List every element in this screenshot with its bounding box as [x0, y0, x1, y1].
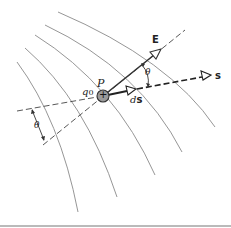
path-dashed-line-forward	[137, 77, 202, 89]
field-diagram	[0, 0, 231, 228]
s-path-arrowhead	[201, 71, 211, 80]
charge-label: q0	[82, 87, 94, 97]
lower-angle-arrow-top	[31, 109, 35, 114]
path-dashed-line-back	[17, 96, 103, 111]
field-vector-label-e: E	[152, 35, 159, 45]
lower-angle-label-theta: θ	[34, 121, 39, 130]
electric-field-lines	[17, 12, 215, 212]
charge-plus-sign: +	[99, 90, 107, 100]
field-line-5	[17, 62, 78, 212]
upper-angle-label-theta: θ	[145, 68, 150, 77]
lower-angle-arrow-bottom	[41, 136, 45, 141]
point-label-p: P	[97, 78, 104, 89]
displacement-label-s: s	[136, 94, 142, 105]
charge-label-subscript: 0	[88, 88, 93, 97]
path-label-s: s	[215, 71, 221, 81]
displacement-label-ds: ds	[130, 95, 142, 105]
